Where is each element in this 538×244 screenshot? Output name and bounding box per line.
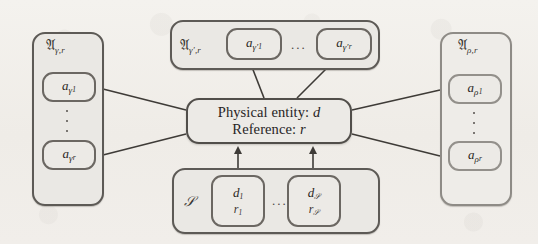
reference-value: r [300, 121, 306, 137]
gamma-group-vertical-ellipsis [64, 110, 70, 132]
gamma-prime-node-r-sub2: r [349, 42, 352, 51]
gamma-prime-node-r[interactable]: aγ′r [316, 28, 372, 60]
arrowhead-bottom-left [234, 146, 242, 154]
physical-entity-label: Physical entity: [218, 104, 309, 120]
arrowhead-bottom-right [309, 146, 317, 154]
gamma-group-label-symbol: 𝔄 [46, 37, 55, 53]
source-group-label: 𝒮 [184, 192, 195, 210]
gamma-node-r-sub2: r [73, 153, 76, 162]
rho-node-r[interactable]: aρr [448, 141, 502, 171]
gamma-prime-node-1[interactable]: aγ′1 [226, 28, 282, 60]
rho-node-r-sub2: r [479, 154, 482, 163]
gamma-prime-group-label: 𝔄γ′,r [180, 36, 201, 55]
physical-entity-line: Physical entity: d [218, 104, 321, 121]
rho-group-label: 𝔄ρ,r [458, 36, 478, 55]
edge-left-bottom [103, 134, 186, 155]
reference-label: Reference: [232, 121, 296, 137]
physical-entity-value: d [313, 104, 320, 120]
gamma-node-1[interactable]: aγ1 [42, 72, 96, 102]
source-node-s-top-sub: 𝒮 [314, 191, 320, 200]
edge-right-top [352, 90, 440, 110]
rho-group-vertical-ellipsis [471, 112, 477, 134]
source-group-label-symbol: 𝒮 [184, 193, 195, 209]
edge-left-top [103, 89, 186, 110]
gamma-group-label-subscript: γ,r [55, 45, 65, 55]
rho-node-1[interactable]: aρ1 [448, 74, 502, 104]
gamma-prime-group-label-symbol: 𝔄 [180, 37, 189, 53]
physical-entity-box[interactable]: Physical entity: d Reference: r [186, 98, 352, 144]
gamma-prime-group-ellipsis: ... [291, 37, 307, 53]
source-node-s-bot-sub: 𝒮 [313, 208, 319, 217]
gamma-prime-group-label-subscript: γ′,r [189, 45, 201, 55]
gamma-node-1-sub2: 1 [72, 85, 76, 94]
diagram-canvas: 𝔄γ,r aγ1 aγr 𝔄γ′,r aγ′1 ... aγ′r Physica… [0, 0, 538, 244]
gamma-prime-node-1-sub2: 1 [258, 42, 262, 51]
source-node-s[interactable]: d𝒮 r𝒮 [287, 175, 341, 227]
rho-group-label-subscript: ρ,r [467, 45, 478, 55]
gamma-node-r[interactable]: aγr [42, 140, 96, 170]
rho-node-1-sub2: 1 [479, 87, 483, 96]
edge-right-bottom [352, 134, 440, 156]
rho-group-label-symbol: 𝔄 [458, 37, 467, 53]
gamma-group-label: 𝔄γ,r [46, 36, 65, 55]
source-node-1[interactable]: d1 r1 [211, 175, 265, 227]
reference-line: Reference: r [232, 121, 305, 138]
source-node-1-bot-sub: 1 [238, 208, 242, 217]
source-group-ellipsis: ... [272, 193, 288, 209]
source-node-1-top-sub: 1 [239, 191, 243, 200]
